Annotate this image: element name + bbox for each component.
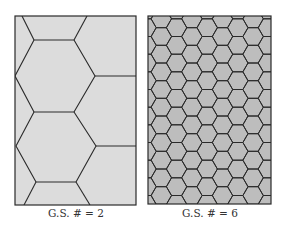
- fine-grain-panel: [121, 0, 293, 233]
- coarse-panel-caption: G.S. # = 2: [48, 207, 104, 219]
- coarse-grain-panel: [15, 16, 136, 205]
- fine-panel-background: [148, 16, 271, 204]
- fine-panel-caption: G.S. # = 6: [182, 207, 238, 219]
- grain-size-diagram: [0, 0, 292, 233]
